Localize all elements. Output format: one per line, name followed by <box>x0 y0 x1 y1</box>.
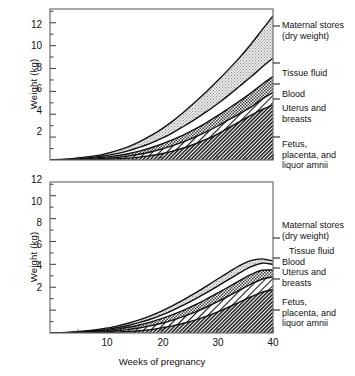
legend-tissue-fluid-top: Tissue fluid <box>282 68 344 79</box>
y-tick-label-bottom-6: 6 <box>26 240 42 250</box>
stacked-bands-bottom <box>50 259 273 333</box>
legend-uterus-breasts-bottom: Uterus and breasts <box>282 267 344 288</box>
y-tick-label-top-2: 2 <box>26 127 42 137</box>
x-tick-label-20: 20 <box>151 338 175 348</box>
y-tick-label-top-4: 4 <box>26 106 42 116</box>
legend-fetus-placenta-top: Fetus, placenta, and liquor amnii <box>282 139 344 171</box>
legend-bottom: Maternal stores (dry weight) Tissue flui… <box>282 220 344 329</box>
y-tick-label-bottom-4: 4 <box>26 261 42 271</box>
y-tick-label-bottom-2: 2 <box>26 283 42 293</box>
legend-leaders-bottom <box>273 238 280 310</box>
x-axis-title: Weeks of pregnancy <box>42 356 282 367</box>
legend-top: Maternal stores (dry weight) Tissue flui… <box>282 20 344 171</box>
legend-uterus-breasts-top: Uterus and breasts <box>282 103 344 124</box>
stacked-bands-top <box>50 16 273 160</box>
y-tick-label-top-12: 12 <box>26 20 42 30</box>
legend-maternal-stores-top: Maternal stores (dry weight) <box>282 20 344 41</box>
legend-blood-bottom: Blood <box>282 257 344 268</box>
y-tick-label-bottom-12: 12 <box>26 175 42 185</box>
legend-maternal-stores-bottom: Maternal stores (dry weight) <box>282 220 344 241</box>
x-tick-label-10: 10 <box>95 338 119 348</box>
legend-leaders-top <box>273 26 280 137</box>
x-tick-label-30: 30 <box>206 338 230 348</box>
legend-fetus-placenta-bottom: Fetus, placenta, and liquor amnii <box>282 297 344 329</box>
chart-panel-bottom: Weight (kg) 12 10 8 6 4 2 10 20 30 40 We… <box>0 176 355 376</box>
y-tick-label-bottom-10: 10 <box>26 197 42 207</box>
figure-root: Weight (kg) 12 10 8 6 4 2 Maternal store… <box>0 0 355 376</box>
x-tick-label-40: 40 <box>261 338 285 348</box>
y-tick-label-bottom-8: 8 <box>26 218 42 228</box>
y-tick-label-top-10: 10 <box>26 41 42 51</box>
chart-panel-top: Weight (kg) 12 10 8 6 4 2 Maternal store… <box>0 0 355 188</box>
legend-tissue-fluid-bottom: Tissue fluid <box>282 246 344 257</box>
y-tick-label-top-8: 8 <box>26 63 42 73</box>
y-tick-label-top-6: 6 <box>26 84 42 94</box>
legend-blood-top: Blood <box>282 89 344 100</box>
